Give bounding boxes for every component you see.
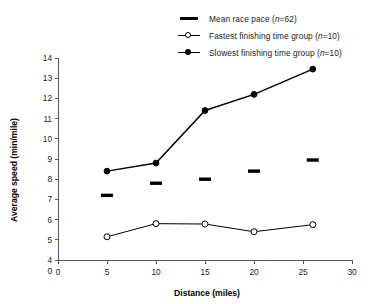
x-tick-label: 15: [200, 267, 210, 277]
y-tick-label: 8: [47, 174, 52, 184]
x-tick-label: 10: [151, 267, 161, 277]
y-tick-label: 4: [47, 255, 52, 265]
series-line-fastest-group: [107, 224, 313, 237]
y-tick-label: 7: [47, 194, 52, 204]
data-point-slowest-group: [310, 66, 316, 72]
x-tick-label: 25: [298, 267, 308, 277]
series-line-slowest-group: [107, 69, 313, 171]
y-axis-ticks: 45678910111213140: [43, 53, 58, 276]
data-point-fastest-group: [251, 229, 257, 235]
y-tick-label: 9: [47, 154, 52, 164]
y-tick-label: 13: [43, 73, 53, 83]
data-point-fastest-group: [104, 234, 110, 240]
data-point-slowest-group: [153, 160, 159, 166]
x-axis-ticks: 051015202530: [56, 260, 357, 277]
y-axis-title: Average speed (min/mile): [9, 118, 19, 222]
data-point-slowest-group: [251, 91, 257, 97]
y-origin-label: 0: [47, 266, 52, 276]
data-point-slowest-group: [104, 168, 110, 174]
data-point-fastest-group: [153, 221, 159, 227]
x-tick-label: 30: [347, 267, 357, 277]
y-tick-label: 10: [43, 134, 53, 144]
y-tick-label: 6: [47, 215, 52, 225]
y-tick-label: 5: [47, 235, 52, 245]
chart-plot-area: 45678910111213140 051015202530 Distance …: [0, 0, 368, 304]
y-tick-label: 12: [43, 93, 53, 103]
data-point-slowest-group: [202, 108, 208, 114]
y-tick-label: 11: [43, 114, 52, 124]
x-tick-label: 0: [56, 267, 61, 277]
x-tick-label: 20: [249, 267, 259, 277]
data-point-fastest-group: [310, 222, 316, 228]
x-tick-label: 5: [105, 267, 110, 277]
data-point-fastest-group: [202, 221, 208, 227]
chart-series-group: [101, 66, 319, 240]
chart-figure: Mean race pace (n=62) Fastest finishing …: [0, 0, 368, 304]
y-tick-label: 14: [43, 53, 53, 63]
x-axis-title: Distance (miles): [174, 288, 240, 298]
